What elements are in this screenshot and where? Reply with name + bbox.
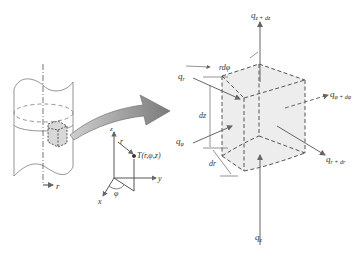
coordinate-system	[103, 132, 156, 196]
small-element	[48, 121, 67, 147]
x-axis-label: x	[97, 197, 102, 206]
y-axis-label: y	[157, 174, 162, 183]
dimension-label-arc: rdφ	[219, 63, 231, 72]
diagram-canvas: r z y x r φ T(r,φ,z)	[0, 0, 364, 254]
radial-axis: r	[43, 181, 60, 191]
point-label: T(r,φ,z)	[137, 151, 161, 160]
z-axis-label: z	[109, 125, 113, 133]
transition-arrow-icon	[70, 95, 170, 140]
flux-label-phi-dphi: qφ + dφ	[330, 89, 352, 100]
angle-label: φ	[114, 189, 119, 198]
flux-label-phi: qφ	[176, 136, 185, 147]
dimension-label-height: dz	[199, 111, 207, 120]
volume-element	[222, 64, 305, 171]
radius-label: r	[120, 137, 124, 146]
radial-axis-label: r	[56, 181, 60, 191]
cylinder	[14, 64, 73, 185]
dimension-label-radial: dr	[209, 159, 217, 168]
flux-label-z-dz: qz + dz	[251, 10, 271, 21]
flux-label-r-dr: qr + dr	[326, 154, 346, 165]
flux-label-r: qr	[178, 71, 186, 82]
flux-label-z: qz	[255, 232, 263, 243]
